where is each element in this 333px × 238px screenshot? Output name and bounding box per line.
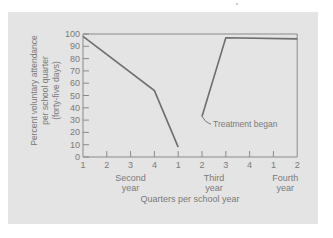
y-axis-label: Percent voluntary attendance [29, 35, 39, 146]
x-tick-label: 1 [80, 160, 85, 170]
x-tick-label: 1 [176, 160, 181, 170]
y-tick-label: 50 [70, 91, 80, 101]
x-tick-label: 2 [104, 160, 109, 170]
y-tick-label: 100 [65, 29, 80, 39]
y-tick-label: 40 [70, 103, 80, 113]
y-tick-label: 20 [70, 127, 80, 137]
y-tick-label: 70 [70, 66, 80, 76]
year-label: Third [204, 173, 225, 183]
data-line [83, 36, 178, 147]
x-tick-label: 2 [295, 160, 300, 170]
year-label: Fourth [272, 173, 298, 183]
data-line [202, 38, 297, 117]
y-tick-label: 0 [75, 152, 80, 162]
y-tick-label: 30 [70, 115, 80, 125]
y-tick-label: 60 [70, 78, 80, 88]
x-tick-label: 4 [152, 160, 157, 170]
x-tick-label: 3 [223, 160, 228, 170]
year-label: Second [115, 173, 146, 183]
year-label: year [122, 183, 140, 193]
x-axis-label: Quarters per school year [141, 194, 240, 204]
x-tick-label: 1 [271, 160, 276, 170]
y-tick-label: 90 [70, 41, 80, 51]
year-label: year [205, 183, 223, 193]
y-axis-label: per school quarter [40, 56, 50, 125]
y-tick-label: 10 [70, 140, 80, 150]
line-chart: 01020304050607080901001234123412Secondye… [0, 0, 333, 238]
x-tick-label: 3 [128, 160, 133, 170]
x-tick-label: 4 [247, 160, 252, 170]
year-label: year [277, 183, 295, 193]
y-axis-label: (forty-five days) [51, 61, 61, 120]
annotation-leader [202, 116, 211, 124]
y-tick-label: 80 [70, 54, 80, 64]
annotation-treatment-began: Treatment began [213, 119, 278, 129]
x-tick-label: 2 [199, 160, 204, 170]
